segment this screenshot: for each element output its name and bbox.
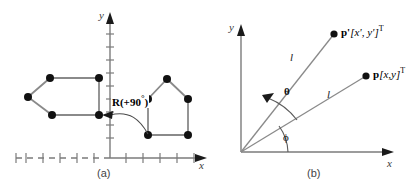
angle-phi-label: ϕ [283, 132, 289, 143]
pentagon-upright-vertex [144, 131, 152, 139]
pentagon-upright-outline [148, 79, 188, 135]
pentagon-rotated-vertex [95, 74, 103, 82]
panel-b-y-axis-arrowhead [237, 24, 245, 36]
pentagon-upright-vertex [184, 95, 192, 103]
pentagon-rotated-outline [28, 78, 99, 115]
panel-b-x-axis-label: x [387, 158, 392, 169]
rotation-operator-prefix: R(+90 [112, 96, 141, 108]
pentagon-upright-vertex [184, 131, 192, 139]
panel-b-axes [237, 24, 394, 156]
point-p-label: p[x,y]T [373, 67, 405, 80]
point-p-prime-label: p'[x', y']T [341, 25, 384, 38]
figure-container: y x R(+90°) (a) y x l l θ ϕ p'[x', y']T … [0, 0, 418, 190]
pentagon-upright-vertex [163, 75, 171, 83]
pentagon-rotated-vertex [24, 93, 32, 101]
theta-arc-path [268, 98, 297, 120]
panel-b-caption: (b) [307, 168, 320, 179]
point-p-transpose: T [400, 66, 405, 75]
rotation-operator-label: R(+90°) [111, 94, 149, 108]
panel-a-pentagon-rotated [24, 74, 103, 119]
panel-a-x-axis-label: x [199, 160, 204, 171]
point-p-marker [362, 72, 369, 79]
length-label-upper: l [290, 52, 293, 63]
panel-b-theta-arc [262, 93, 297, 120]
angle-theta-label: θ [284, 86, 290, 97]
panel-a-y-axis-label: y [99, 10, 104, 21]
ray-p-line [241, 76, 366, 152]
panel-b-x-axis-arrowhead [382, 148, 394, 156]
point-p-prime-transpose: T [379, 24, 384, 33]
rotation-operator-suffix: ) [144, 96, 148, 108]
point-p-prime-marker [330, 30, 337, 37]
point-p-prime-vector: p' [341, 26, 350, 38]
panel-b-ray-to-p [241, 72, 370, 152]
pentagon-rotated-vertex [95, 111, 103, 119]
panel-a-y-axis-arrowhead [106, 12, 114, 24]
panel-a-pentagon-upright [144, 75, 192, 139]
point-p-prime-components: [x', y'] [350, 26, 379, 38]
panel-a-rotation-arrow [102, 111, 148, 134]
panel-b-y-axis-label: y [229, 22, 234, 33]
panel-a-caption: (a) [97, 168, 110, 179]
theta-arc-arrowhead [262, 93, 274, 103]
point-p-components: [x,y] [379, 68, 400, 80]
panel-a-axes [14, 12, 207, 163]
length-label-lower: l [327, 89, 330, 100]
pentagon-rotated-vertex [48, 111, 56, 119]
rotation-arrow-path [110, 114, 148, 134]
pentagon-rotated-vertex [46, 74, 54, 82]
